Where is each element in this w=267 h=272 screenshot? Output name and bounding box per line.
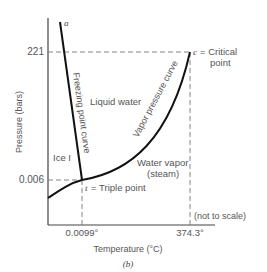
freezing-curve-label: Freezing point curve	[71, 72, 92, 154]
triple-point-letter: t	[85, 183, 88, 193]
critical-point-label-2: point	[210, 57, 231, 68]
triple-point-label: = Triple point	[91, 182, 146, 193]
phase-diagram: 221 0.006 0.0099° 374.3° Temperature (°C…	[0, 0, 267, 272]
y-axis-title: Pressure (bars)	[14, 91, 24, 153]
not-to-scale-note: (not to scale)	[194, 211, 246, 221]
figure-caption: (b)	[123, 259, 134, 269]
y-tick-0006: 0.006	[19, 174, 44, 185]
region-liquid-water: Liquid water	[90, 96, 141, 107]
x-tick-triple: 0.0099°	[66, 227, 99, 238]
x-axis-title: Temperature (°C)	[93, 244, 162, 254]
critical-point-letter: c	[193, 47, 197, 57]
point-a-label: a	[64, 18, 69, 28]
region-steam: (steam)	[147, 168, 179, 179]
sublimation-curve	[48, 180, 82, 198]
x-tick-critical: 374.3°	[176, 227, 204, 238]
region-ice: Ice I	[53, 152, 71, 163]
critical-point-label: = Critical	[200, 46, 237, 57]
region-water-vapor: Water vapor	[137, 157, 188, 168]
y-tick-221: 221	[27, 46, 44, 57]
